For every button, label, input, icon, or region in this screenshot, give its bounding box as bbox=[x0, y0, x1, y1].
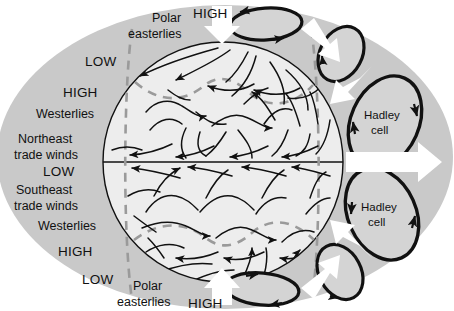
label-westerlies-south: Westerlies bbox=[38, 219, 96, 233]
label-hadley-cell-south-line1: Hadley bbox=[361, 201, 397, 213]
label-low-north-polar: LOW bbox=[85, 54, 116, 69]
label-polar-easterlies-south-line2: easterlies bbox=[117, 295, 171, 309]
label-polar-easterlies-north-line1: Polar bbox=[152, 11, 181, 25]
label-polar-easterlies-south-line1: Polar bbox=[133, 279, 162, 293]
label-low-equator: LOW bbox=[43, 164, 74, 179]
arrow-south-pole-down-right bbox=[362, 284, 388, 311]
label-southeast-trades-line2: trade winds bbox=[14, 199, 78, 213]
label-high-south-subpolar: HIGH bbox=[58, 244, 93, 259]
label-westerlies-north: Westerlies bbox=[36, 107, 94, 121]
label-high-south-pole: HIGH bbox=[188, 296, 223, 311]
label-hadley-cell-north-line2: cell bbox=[371, 124, 388, 136]
label-southeast-trades-line1: Southeast bbox=[16, 183, 73, 197]
label-high-north-pole: HIGH bbox=[193, 6, 228, 21]
label-hadley-cell-north-line1: Hadley bbox=[364, 109, 400, 121]
label-high-north-subpolar: HIGH bbox=[63, 85, 98, 100]
label-low-south-polar: LOW bbox=[82, 272, 113, 287]
label-northeast-trades-line2: trade winds bbox=[14, 148, 78, 162]
diagram-canvas: LOW HIGH Westerlies Northeast trade wind… bbox=[0, 0, 454, 311]
label-hadley-cell-south-line2: cell bbox=[368, 216, 385, 228]
label-northeast-trades-line1: Northeast bbox=[18, 132, 73, 146]
label-polar-easterlies-north-line2: easterlies bbox=[128, 27, 182, 41]
global-circulation-diagram: LOW HIGH Westerlies Northeast trade wind… bbox=[0, 0, 454, 311]
